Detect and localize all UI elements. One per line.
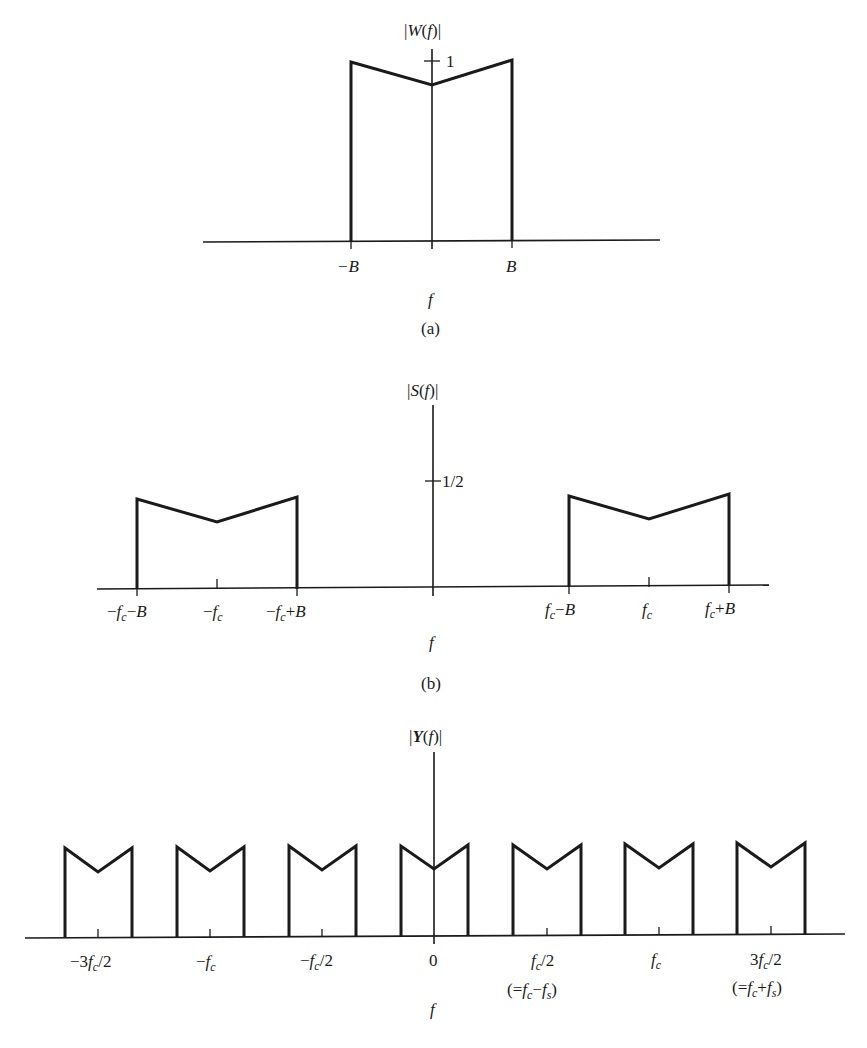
x-tick-label: −fc/2 (300, 951, 333, 973)
x-tick-label: fc (642, 600, 653, 622)
y-replica (513, 845, 581, 936)
x-tick-label-neg-b: −B (337, 257, 359, 276)
y-axis-label: |Y(f)| (409, 727, 442, 746)
y-tick-label: 1/2 (442, 472, 464, 491)
y-replica (177, 847, 244, 938)
y-replica (289, 846, 356, 937)
x-tick-label: fc (651, 950, 662, 972)
x-axis (25, 934, 845, 938)
x-axis-label: f (429, 633, 436, 652)
x-tick-note: (=fc−fs) (507, 980, 557, 1002)
y-replica (737, 843, 805, 935)
s-spectrum-neg-band (137, 497, 297, 589)
figure: |W(f)| 1 −B B f (a) |S(f)| 1/2 −fc−B −fc… (0, 0, 867, 1048)
x-tick-label: fc+B (705, 599, 736, 621)
x-tick-label: −fc−B (107, 602, 147, 624)
y-tick-label: 1 (446, 52, 455, 71)
x-tick-label: fc−B (545, 600, 576, 622)
x-tick-label: 3fc/2 (750, 950, 782, 972)
x-axis-label: f (428, 290, 435, 309)
x-tick-label: −fc (203, 602, 223, 624)
y-replica (625, 844, 693, 935)
x-tick-label: fc/2 (531, 951, 554, 973)
x-axis-label: f (430, 1000, 437, 1019)
caption-a: (a) (421, 319, 440, 338)
x-tick-label: 0 (429, 951, 438, 970)
y-axis-label: |W(f)| (404, 21, 441, 40)
caption-b: (b) (421, 674, 441, 693)
x-tick-label-b: B (506, 257, 517, 276)
panel-b: |S(f)| 1/2 −fc−B −fc −fc+B fc−B fc fc+B … (97, 381, 769, 693)
panel-a: |W(f)| 1 −B B f (a) (203, 21, 660, 338)
x-tick-note: (=fc+fs) (732, 978, 782, 1000)
panel-c: |Y(f)| −3fc/2 −fc −fc/2 0 fc/2 (=fc−fs) … (25, 727, 845, 1019)
x-tick-label: −3fc/2 (70, 952, 111, 974)
y-axis-label: |S(f)| (407, 381, 438, 400)
y-replica (65, 848, 132, 938)
x-tick-label: −fc+B (266, 602, 306, 624)
x-tick-label: −fc (196, 952, 216, 974)
s-spectrum-pos-band (569, 494, 729, 587)
